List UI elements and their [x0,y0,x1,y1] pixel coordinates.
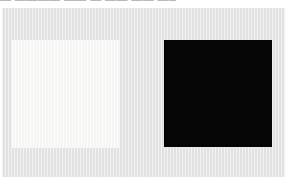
image-panel [2,8,285,177]
black-square [164,40,272,147]
white-square [12,40,120,148]
caption-text: — ———— —— — —— —— ——— [0,0,176,6]
